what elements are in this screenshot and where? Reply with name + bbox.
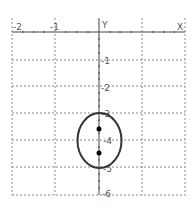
x-tick-label: -1 — [50, 22, 59, 32]
y-tick-label: -1 — [101, 56, 110, 66]
focus-point — [97, 127, 102, 132]
y-tick-label: -4 — [103, 136, 112, 146]
graph-canvas: -2 -1 Y X -1 -2 -3 -4 -5 -6 — [0, 0, 195, 209]
focus-point — [97, 151, 102, 156]
x-axis-label: X — [177, 22, 183, 32]
y-tick-label: -2 — [101, 83, 110, 93]
y-axis-label: Y — [101, 20, 108, 30]
y-tick-label: -6 — [102, 189, 111, 199]
x-tick-label: -2 — [13, 22, 22, 32]
